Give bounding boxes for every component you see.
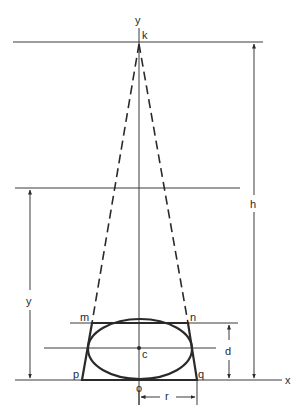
point-m-label: m (80, 311, 89, 323)
dimension-d-label: d (225, 345, 231, 357)
perspective-diagram: y x k m n p q c o h y d r (0, 0, 303, 416)
x-axis-label: x (285, 374, 291, 386)
point-p-label: p (73, 368, 79, 380)
point-q-label: q (198, 368, 204, 380)
dimension-h-label: h (250, 198, 256, 210)
point-k-label: k (142, 29, 148, 41)
projection-line-right (139, 44, 188, 323)
point-o-label: o (136, 382, 142, 394)
point-n-label: n (190, 311, 196, 323)
dimension-r-label: r (165, 390, 169, 402)
center-point (137, 346, 141, 350)
dimension-y-label: y (26, 295, 32, 307)
point-c-label: c (142, 348, 148, 360)
y-axis-label: y (135, 14, 141, 26)
projection-line-left (92, 44, 139, 323)
